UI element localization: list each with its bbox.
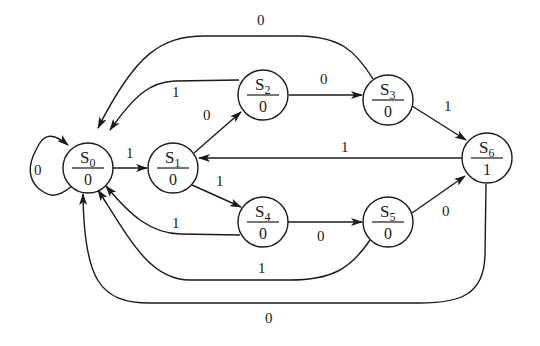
edge-label-s2-s3: 0 — [320, 71, 328, 87]
edge-label-s3-s6: 1 — [444, 98, 452, 114]
state-s1: S1 0 — [148, 143, 198, 193]
edge-label-s4-s0: 1 — [172, 215, 180, 231]
svg-text:0: 0 — [169, 171, 177, 188]
edge-s1-s2 — [194, 112, 241, 153]
svg-text:0: 0 — [259, 225, 267, 242]
state-s0: S0 0 — [63, 143, 113, 193]
edge-label-s1-s2: 0 — [203, 107, 211, 123]
edge-label-s2-s0: 1 — [172, 84, 180, 100]
state-s6: S6 1 — [462, 133, 512, 183]
edge-s3-s6 — [412, 106, 466, 140]
edge-label-s4-s5: 0 — [317, 228, 325, 244]
state-s2: S2 0 — [238, 70, 288, 120]
svg-text:0: 0 — [84, 171, 92, 188]
edge-label-s3-s0: 0 — [257, 12, 265, 28]
edge-label-s6-s0: 0 — [265, 310, 273, 326]
svg-text:0: 0 — [259, 98, 267, 115]
edge-label-s1-s4: 1 — [216, 173, 224, 189]
edge-label-s0-s1: 1 — [126, 145, 134, 161]
edge-label-s5-s6: 0 — [442, 203, 450, 219]
svg-text:0: 0 — [384, 103, 392, 120]
edge-s6-s0 — [83, 184, 486, 303]
edge-label-s6-s1: 1 — [341, 139, 349, 155]
svg-text:0: 0 — [384, 225, 392, 242]
edge-label-s0-s0: 0 — [34, 162, 42, 178]
edge-s5-s6 — [412, 176, 465, 213]
edge-label-s5-s0: 1 — [258, 260, 266, 276]
state-s4: S4 0 — [238, 197, 288, 247]
state-s3: S3 0 — [363, 75, 413, 125]
svg-text:1: 1 — [483, 161, 491, 178]
state-s5: S5 0 — [363, 197, 413, 247]
state-diagram: 0 1 0 1 0 1 0 1 0 1 0 1 — [0, 0, 540, 346]
edge-s3-s0 — [98, 36, 373, 128]
